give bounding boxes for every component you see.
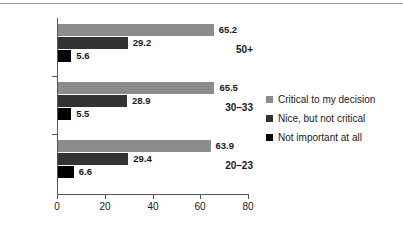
x-axis-tick [200,194,201,199]
legend-label: Critical to my decision [278,94,375,106]
legend-label: Nice, but not critical [278,113,365,125]
bar [58,24,214,36]
x-axis-tick-label: 0 [37,201,77,213]
legend-item-critical: Critical to my decision [266,90,403,109]
bar [58,140,211,152]
legend-swatch-icon [266,115,273,122]
x-axis-tick-label: 80 [228,201,268,213]
legend-item-not-important: Not important at all [266,128,403,147]
bar-value-label: 5.5 [76,108,89,120]
chart-figure: 0 20 40 60 80 50+ 30–33 20–23 65.2 29.2 … [0,0,403,232]
plot-area: 0 20 40 60 80 50+ 30–33 20–23 65.2 29.2 … [0,0,260,232]
bar-value-label: 63.9 [216,140,235,152]
bar-value-label: 29.4 [133,153,152,165]
bar [58,153,128,165]
x-axis-tick [248,194,249,199]
bar [58,108,71,120]
legend-item-nice: Nice, but not critical [266,109,403,128]
x-axis-tick-label: 20 [85,201,125,213]
x-axis-tick-label: 60 [180,201,220,213]
bar-value-label: 5.6 [76,50,89,62]
bar [58,50,71,62]
bar-value-label: 6.6 [79,166,92,178]
legend-swatch-icon [266,134,273,141]
y-axis-category-label: 20–23 [208,160,260,172]
bar [58,95,127,107]
legend-label: Not important at all [278,132,362,144]
bar-value-label: 65.5 [219,82,238,94]
bar [58,37,128,49]
chart-legend: Critical to my decision Nice, but not cr… [266,90,403,147]
y-axis-separator-tick [52,76,57,77]
bar-value-label: 28.9 [132,95,151,107]
bar-value-label: 29.2 [133,37,152,49]
x-axis-tick-label: 40 [133,201,173,213]
y-axis-separator-tick [52,134,57,135]
bar [58,82,214,94]
x-axis-tick [105,194,106,199]
y-axis-category-label: 30–33 [208,102,260,114]
legend-swatch-icon [266,96,273,103]
bar-value-label: 65.2 [219,24,238,36]
y-axis-category-label: 50+ [208,44,260,56]
x-axis-tick [57,194,58,199]
x-axis-tick [153,194,154,199]
bar [58,166,74,178]
